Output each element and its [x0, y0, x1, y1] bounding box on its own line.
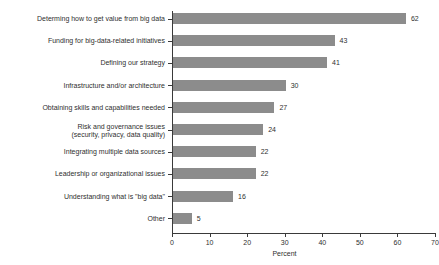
bar-row: Defining our strategy41	[0, 57, 439, 79]
y-axis-tick	[168, 107, 172, 108]
x-axis-tick-label: 10	[206, 239, 214, 247]
category-label: Funding for big-data-related initiatives	[0, 37, 165, 45]
y-axis-tick	[168, 19, 172, 20]
x-axis-title: Percent	[0, 250, 439, 257]
bar-row: Other5	[0, 213, 439, 235]
bar-value-label: 43	[340, 35, 348, 46]
x-axis-tick	[285, 233, 286, 237]
bar-row: Determing how to get value from big data…	[0, 13, 439, 35]
bar-row: Risk and governance issues (security, pr…	[0, 124, 439, 146]
bar-row: Infrastructure and/or architecture30	[0, 80, 439, 102]
bar	[173, 213, 192, 224]
bar-value-label: 24	[268, 124, 276, 135]
x-axis-tick-label: 30	[281, 239, 289, 247]
y-axis-tick	[168, 174, 172, 175]
category-label: Obtaining skills and capabilities needed	[0, 104, 165, 112]
bar	[173, 102, 274, 113]
bar-row: Integrating multiple data sources22	[0, 146, 439, 168]
x-axis-tick	[210, 233, 211, 237]
category-label: Leadership or organizational issues	[0, 170, 165, 178]
y-axis-tick	[168, 130, 172, 131]
bar-value-label: 22	[261, 168, 269, 179]
bar-value-label: 62	[411, 13, 419, 24]
y-axis-tick	[168, 85, 172, 86]
bar	[173, 35, 335, 46]
x-axis-tick-label: 60	[394, 239, 402, 247]
x-axis-tick-label: 20	[243, 239, 251, 247]
bar	[173, 191, 233, 202]
x-axis-tick	[435, 233, 436, 237]
x-axis-tick	[247, 233, 248, 237]
bar	[173, 168, 256, 179]
category-label: Infrastructure and/or architecture	[0, 82, 165, 90]
x-axis-tick-label: 0	[170, 239, 174, 247]
bar-value-label: 5	[197, 213, 201, 224]
bar-value-label: 30	[291, 80, 299, 91]
category-label: Understanding what is "big data"	[0, 193, 165, 201]
bar	[173, 13, 406, 24]
x-axis-tick-label: 70	[431, 239, 439, 247]
bar-row: Leadership or organizational issues22	[0, 168, 439, 190]
category-label: Risk and governance issues (security, pr…	[0, 123, 165, 139]
x-axis-tick	[172, 233, 173, 237]
category-label: Determing how to get value from big data	[0, 15, 165, 23]
y-axis-tick	[168, 196, 172, 197]
category-label: Other	[0, 215, 165, 223]
bar	[173, 146, 256, 157]
bar-value-label: 41	[332, 57, 340, 68]
category-label: Defining our strategy	[0, 59, 165, 67]
y-axis-tick	[168, 63, 172, 64]
y-axis-tick	[168, 218, 172, 219]
bar-value-label: 22	[261, 146, 269, 157]
bar-chart: Determing how to get value from big data…	[0, 0, 439, 265]
x-axis-tick	[360, 233, 361, 237]
bar	[173, 57, 327, 68]
category-label: Integrating multiple data sources	[0, 148, 165, 156]
bar	[173, 80, 286, 91]
x-axis-tick-label: 40	[318, 239, 326, 247]
x-axis-tick	[397, 233, 398, 237]
bar-value-label: 16	[238, 191, 246, 202]
x-axis-tick	[322, 233, 323, 237]
y-axis-tick	[168, 152, 172, 153]
y-axis-tick	[168, 41, 172, 42]
bar-row: Obtaining skills and capabilities needed…	[0, 102, 439, 124]
bar-row: Understanding what is "big data"16	[0, 191, 439, 213]
bar	[173, 124, 263, 135]
x-axis-tick-label: 50	[356, 239, 364, 247]
bar-row: Funding for big-data-related initiatives…	[0, 35, 439, 57]
bar-value-label: 27	[279, 102, 287, 113]
